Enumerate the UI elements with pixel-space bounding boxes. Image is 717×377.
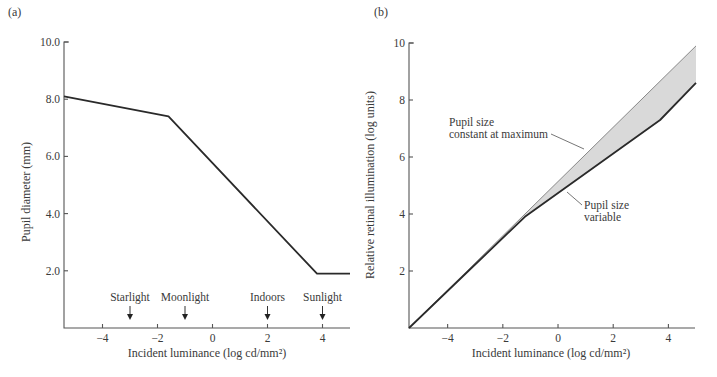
panel-b: (b) 246810 −4−2024 Pupil size constant a…	[363, 5, 696, 360]
y-tick-label: 4.0	[46, 208, 61, 220]
arrow-down-icon	[320, 314, 326, 320]
arrow-down-icon	[265, 314, 271, 320]
y-tick-label: 6.0	[46, 150, 61, 162]
y-tick-label: 10	[394, 37, 406, 49]
panel-a-label: (a)	[8, 5, 21, 19]
y-tick-label: 2.0	[46, 265, 61, 277]
annotation-constant-leader	[551, 134, 584, 149]
x-tick-label: 4	[666, 332, 672, 344]
panel-b-y-ticks: 246810	[394, 37, 414, 277]
x-tick-label: −2	[151, 332, 163, 344]
x-tick-label: 0	[555, 332, 561, 344]
light-level-label: Moonlight	[161, 291, 210, 304]
y-tick-label: 6	[399, 151, 405, 163]
panel-b-y-axis-label: Relative retinal illumination (log units…	[363, 91, 377, 279]
panel-a-y-axis-label: Pupil diameter (mm)	[19, 142, 33, 242]
arrow-down-icon	[127, 314, 133, 320]
y-tick-label: 8.0	[46, 93, 61, 105]
y-tick-label: 10.0	[40, 36, 60, 48]
x-tick-label: −2	[497, 332, 509, 344]
x-tick-label: −4	[96, 332, 108, 344]
panel-a-x-axis-label: Incident luminance (log cd/mm²)	[128, 346, 287, 360]
axis-lines	[64, 42, 350, 328]
x-tick-label: −4	[442, 332, 454, 344]
y-tick-label: 4	[399, 208, 405, 220]
light-level-label: Starlight	[110, 291, 150, 304]
pupil-diameter-line	[64, 96, 350, 273]
light-level-label: Sunlight	[303, 291, 343, 304]
light-level-label: Indoors	[250, 291, 286, 303]
y-tick-label: 8	[399, 94, 405, 106]
annotation-variable-leader	[567, 192, 582, 205]
panel-a-light-annotations: StarlightMoonlightIndoorsSunlight	[110, 291, 343, 320]
x-tick-label: 2	[265, 332, 271, 344]
panel-b-label: (b)	[374, 5, 388, 19]
arrow-down-icon	[182, 314, 188, 320]
annotation-constant-line2: constant at maximum	[449, 128, 548, 140]
panel-b-x-ticks: −4−2024	[442, 324, 672, 344]
figure: (a) 2.04.06.08.010.0 −4−2024 StarlightMo…	[0, 0, 717, 377]
panel-a: (a) 2.04.06.08.010.0 −4−2024 StarlightMo…	[8, 5, 350, 360]
x-tick-label: 2	[610, 332, 616, 344]
x-tick-label: 0	[210, 332, 216, 344]
panel-b-x-axis-label: Incident luminance (log cd/mm²)	[472, 346, 631, 360]
panel-a-x-ticks: −4−2024	[96, 324, 325, 344]
y-tick-label: 2	[399, 265, 405, 277]
panel-a-axes	[64, 42, 350, 328]
x-tick-label: 4	[320, 332, 326, 344]
annotation-variable-line2: variable	[584, 211, 621, 223]
